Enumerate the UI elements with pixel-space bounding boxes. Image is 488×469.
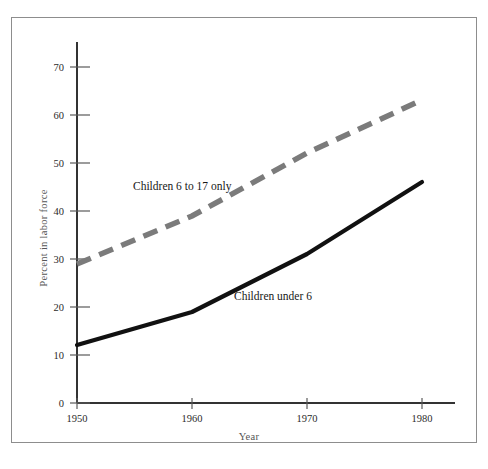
y-tick-label: 10	[54, 350, 65, 361]
x-axis-title: Year	[239, 431, 260, 442]
y-tick-label: 50	[54, 158, 65, 169]
axes-group	[77, 42, 455, 403]
y-axis-tick-labels: 70 60 50 40 30 20 10 0	[54, 62, 65, 409]
x-tick-label: 1950	[67, 413, 88, 424]
x-tick-label: 1980	[412, 413, 433, 424]
y-axis-ticks	[70, 67, 90, 403]
y-tick-label: 40	[54, 206, 65, 217]
figure-root: 70 60 50 40 30 20 10 0 1950 1960 1970 19…	[0, 0, 488, 469]
y-tick-label: 20	[54, 302, 65, 313]
series-line-children-6-to-17	[77, 100, 422, 264]
y-tick-label: 70	[54, 62, 65, 73]
y-tick-label: 60	[54, 110, 65, 121]
series-annotation-children-under-6: Children under 6	[234, 290, 312, 302]
line-chart-plot: 70 60 50 40 30 20 10 0 1950 1960 1970 19…	[0, 0, 488, 469]
series-annotation-children-6-to-17: Children 6 to 17 only	[133, 180, 232, 193]
y-tick-label: 30	[54, 254, 65, 265]
y-tick-label: 0	[59, 398, 64, 409]
x-axis-tick-labels: 1950 1960 1970 1980	[67, 413, 433, 424]
x-tick-label: 1960	[182, 413, 203, 424]
x-tick-label: 1970	[297, 413, 318, 424]
series-line-children-under-6	[77, 182, 422, 345]
y-axis-title: Percent in labor force	[38, 189, 49, 286]
